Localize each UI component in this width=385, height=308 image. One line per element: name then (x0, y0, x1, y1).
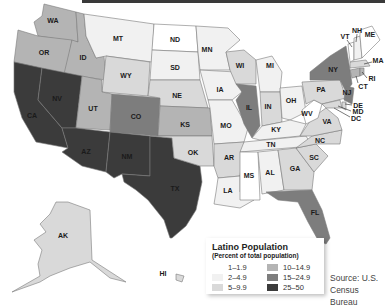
label-me: ME (365, 31, 376, 38)
label-mn: MN (202, 46, 213, 53)
label-in: IN (265, 103, 272, 110)
source-note: Source: U.S. Census Bureau (330, 272, 385, 308)
legend-subtitle: (Percent of total population) (212, 252, 318, 260)
label-ct: CT (358, 83, 368, 90)
label-nh: NH (352, 27, 362, 34)
label-mi: MI (266, 62, 274, 69)
label-nc: NC (315, 137, 325, 144)
label-mt: MT (113, 35, 124, 42)
label-nj: NJ (343, 89, 352, 96)
label-al: AL (265, 169, 275, 176)
state-vt[interactable] (348, 42, 354, 62)
leader-dc (334, 108, 350, 117)
state-ct[interactable] (350, 68, 360, 78)
legend-label: 25–50 (283, 283, 304, 292)
label-fl: FL (311, 209, 320, 216)
legend-title: Latino Population (212, 242, 318, 252)
label-pa: PA (316, 86, 325, 93)
legend-item: 1–1.9 (212, 263, 263, 272)
label-co: CO (131, 113, 142, 120)
legend-item: 5–9.9 (212, 283, 263, 292)
label-sd: SD (170, 64, 180, 71)
label-ma: MA (373, 57, 384, 64)
label-tn: TN (266, 141, 275, 148)
legend-label: 15–24.9 (283, 273, 310, 282)
label-ny: NY (328, 66, 338, 73)
legend-item: 15–24.9 (267, 273, 318, 282)
label-wa: WA (47, 17, 58, 24)
label-sc: SC (309, 154, 319, 161)
label-mo: MO (220, 122, 232, 129)
label-ga: GA (290, 165, 301, 172)
label-la: LA (223, 187, 232, 194)
label-md: MD (353, 108, 364, 115)
state-hi[interactable] (176, 274, 184, 282)
legend-item: 10–14.9 (267, 263, 318, 272)
label-ak: AK (58, 232, 68, 239)
label-wi: WI (236, 62, 245, 69)
legend-item: 25–50 (267, 283, 318, 292)
label-nd: ND (170, 36, 180, 43)
legend-swatch (212, 264, 223, 271)
source-line-2: Census Bureau (330, 284, 385, 308)
label-oh: OH (286, 97, 297, 104)
state-fl[interactable] (266, 190, 330, 244)
legend-swatch (212, 274, 223, 281)
label-wy: WY (120, 72, 132, 79)
legend-swatch (212, 284, 223, 291)
state-ma[interactable] (350, 60, 370, 68)
label-wv: WV (301, 110, 313, 117)
label-ks: KS (180, 121, 190, 128)
label-ut: UT (88, 105, 98, 112)
legend-swatch (267, 274, 278, 281)
label-ok: OK (188, 149, 199, 156)
label-or: OR (39, 49, 50, 56)
label-nm: NM (122, 153, 133, 160)
legend-label: 2–4.9 (228, 273, 247, 282)
label-ia: IA (217, 86, 224, 93)
label-ar: AR (224, 154, 234, 161)
label-ri: RI (369, 75, 376, 82)
legend-label: 10–14.9 (283, 263, 310, 272)
legend-swatch (267, 284, 278, 291)
leader-ri (362, 72, 367, 78)
label-hi: HI (160, 270, 167, 277)
map-legend: Latino Population (Percent of total popu… (206, 238, 324, 294)
legend-swatch (267, 264, 278, 271)
state-ak[interactable] (12, 202, 126, 292)
label-nv: NV (52, 95, 62, 102)
label-dc: DC (351, 115, 361, 122)
label-ky: KY (271, 126, 281, 133)
legend-label: 1–1.9 (228, 263, 247, 272)
label-az: AZ (81, 148, 91, 155)
label-ne: NE (172, 92, 182, 99)
label-tx: TX (171, 185, 180, 192)
label-ms: MS (244, 172, 255, 179)
label-il: IL (246, 104, 253, 111)
source-line-1: Source: U.S. (330, 272, 385, 284)
label-vt: VT (341, 33, 351, 40)
label-ca: CA (27, 112, 37, 119)
label-va: VA (322, 118, 331, 125)
legend-item: 2–4.9 (212, 273, 263, 282)
legend-label: 5–9.9 (228, 283, 247, 292)
label-id: ID (80, 54, 87, 61)
